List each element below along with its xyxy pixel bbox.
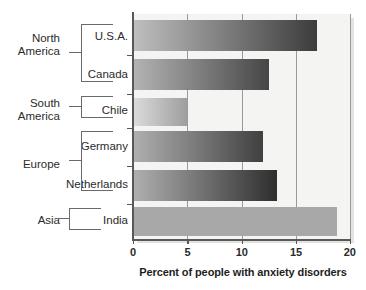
bar-germany xyxy=(133,131,263,162)
y-tick-separator-3 xyxy=(127,128,133,129)
x-axis-title: Percent of people with anxiety disorders xyxy=(133,266,353,278)
region-label-asia-line1: Asia xyxy=(12,214,60,227)
region-label-north-america-line1: North xyxy=(12,32,60,45)
y-tick-separator-1 xyxy=(127,55,133,56)
x-tick-mark-20 xyxy=(350,239,351,244)
bracket-europe xyxy=(69,131,121,191)
gridline-20 xyxy=(350,14,351,239)
region-label-south-america: South America xyxy=(12,97,60,122)
x-tick-mark-15 xyxy=(296,239,297,244)
anxiety-disorders-bar-chart: 0 5 10 15 20 Percent of people with anxi… xyxy=(0,0,366,290)
x-tick-label-0: 0 xyxy=(118,246,148,258)
x-tick-label-15: 15 xyxy=(281,246,311,258)
region-label-europe-line1: Europe xyxy=(12,158,60,171)
y-tick-separator-5 xyxy=(127,204,133,205)
region-label-north-america: North America xyxy=(12,32,60,57)
x-tick-mark-5 xyxy=(187,239,188,244)
bracket-south-america xyxy=(69,96,121,118)
y-tick-separator-4 xyxy=(127,166,133,167)
x-tick-label-10: 10 xyxy=(227,246,257,258)
region-label-south-america-line1: South xyxy=(12,97,60,110)
x-tick-label-20: 20 xyxy=(335,246,365,258)
bar-chile xyxy=(133,98,187,126)
region-label-europe: Europe xyxy=(12,158,60,171)
y-axis-line xyxy=(132,12,134,241)
y-tick-separator-2 xyxy=(127,94,133,95)
bar-canada xyxy=(133,59,269,90)
x-tick-mark-0 xyxy=(133,239,134,244)
bracket-north-america xyxy=(69,24,121,82)
bracket-asia xyxy=(55,208,121,230)
bar-usa xyxy=(133,20,317,51)
region-label-south-america-line2: America xyxy=(12,110,60,123)
x-tick-label-5: 5 xyxy=(173,246,203,258)
bar-india xyxy=(133,207,337,236)
bar-netherlands xyxy=(133,170,277,201)
region-label-asia: Asia xyxy=(12,214,60,227)
region-label-north-america-line2: America xyxy=(12,45,60,58)
x-tick-mark-10 xyxy=(242,239,243,244)
